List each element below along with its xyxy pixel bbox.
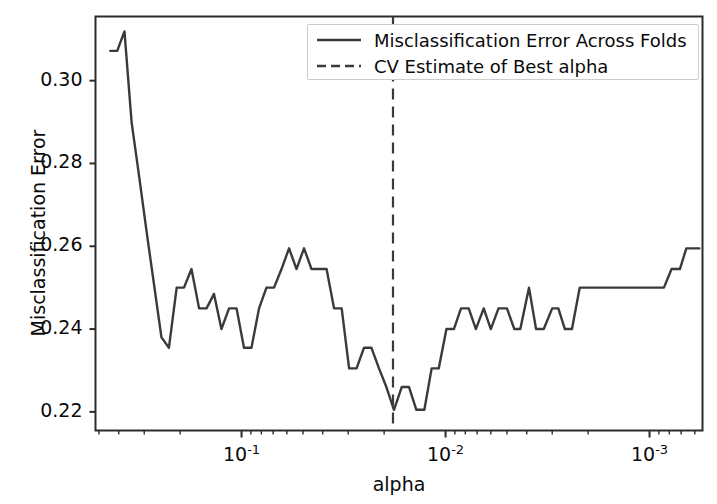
x-tick-label: 10-2	[401, 442, 491, 465]
x-tick-exponent: -3	[655, 442, 668, 457]
x-tick-label: 10-1	[197, 442, 287, 465]
x-tick-mantissa: 10	[427, 443, 451, 465]
legend: Misclassification Error Across Folds CV …	[307, 24, 699, 80]
x-tick-exponent: -1	[247, 442, 260, 457]
legend-item-vline: CV Estimate of Best alpha	[316, 53, 608, 79]
chart-figure: 0.30 0.28 0.26 0.24 0.22 10-1 10-2 10-3 …	[0, 0, 717, 504]
x-tick-label: 10-3	[605, 442, 695, 465]
x-tick-mantissa: 10	[631, 443, 655, 465]
y-tick-label: 0.22	[0, 399, 83, 421]
legend-label: CV Estimate of Best alpha	[374, 56, 608, 77]
x-tick-exponent: -2	[451, 442, 464, 457]
y-axis-label: Misclassification Error	[27, 103, 49, 363]
legend-item-series: Misclassification Error Across Folds	[316, 27, 687, 53]
x-tick-mantissa: 10	[223, 443, 247, 465]
legend-label: Misclassification Error Across Folds	[374, 30, 687, 51]
solid-line-icon	[316, 33, 362, 47]
dashed-line-icon	[316, 59, 362, 73]
x-axis-label: alpha	[95, 473, 703, 495]
y-tick-label: 0.30	[0, 68, 83, 90]
